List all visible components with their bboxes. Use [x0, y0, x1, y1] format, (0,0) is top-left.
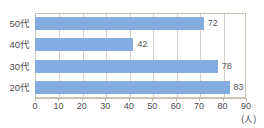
x-axis-tick-label: 80 [218, 101, 228, 111]
bar-row: 78 [35, 56, 246, 77]
x-axis-line [35, 98, 246, 99]
x-axis-tick-label: 60 [171, 101, 181, 111]
bar-row: 42 [35, 34, 246, 55]
bar [35, 17, 204, 30]
y-axis-label: 20代 [9, 77, 30, 98]
x-axis-tick-label: 20 [77, 101, 87, 111]
bar-series: 72427883 [35, 13, 246, 98]
y-axis-label: 30代 [9, 56, 30, 77]
bar-row: 72 [35, 13, 246, 34]
x-axis-tick-label: 30 [100, 101, 110, 111]
unit-label: (人) [241, 112, 256, 124]
x-axis-tick-label: 90 [241, 101, 251, 111]
bar [35, 38, 133, 51]
x-axis-tick-label: 40 [124, 101, 134, 111]
bar-chart: 50代40代30代20代 72427883 010203040506070809… [0, 0, 264, 128]
x-axis-tick-label: 50 [147, 101, 157, 111]
y-axis-labels: 50代40代30代20代 [0, 13, 33, 98]
y-axis-label: 50代 [9, 13, 30, 34]
bar [35, 60, 218, 73]
y-axis-label: 40代 [9, 34, 30, 55]
bar-row: 83 [35, 77, 246, 98]
bar-value-label: 72 [208, 15, 218, 31]
x-axis-tick-label: 10 [53, 101, 63, 111]
bar-value-label: 83 [234, 79, 244, 95]
bar-value-label: 78 [222, 58, 232, 74]
x-axis-tick-label: 0 [32, 101, 37, 111]
bar-value-label: 42 [137, 36, 147, 52]
x-axis-tick-label: 70 [194, 101, 204, 111]
bar [35, 81, 230, 94]
